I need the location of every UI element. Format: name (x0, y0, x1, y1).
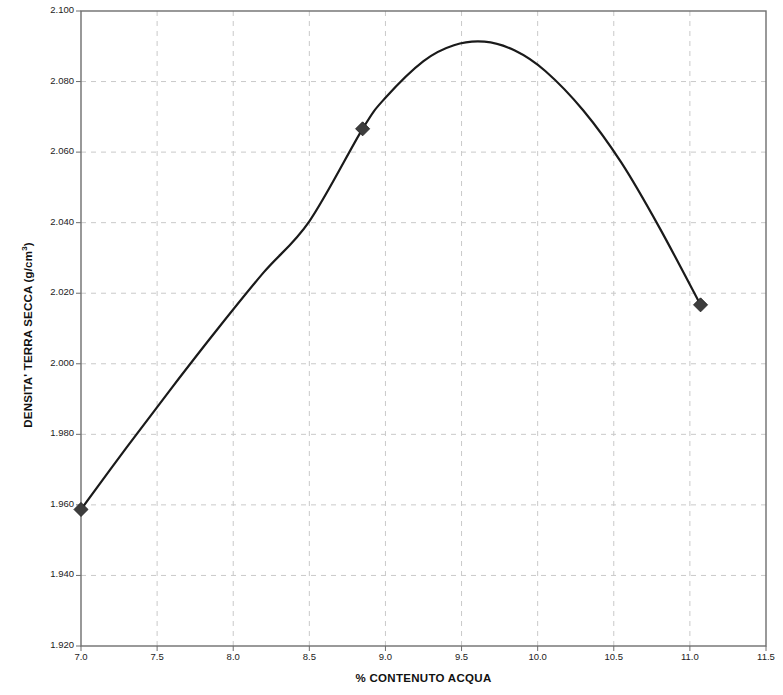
x-axis-title: % CONTENUTO ACQUA (81, 672, 766, 684)
axis-tick-marks (76, 11, 766, 651)
plot-area (0, 0, 783, 695)
axis-frame (81, 11, 766, 646)
data-series-markers (74, 122, 708, 517)
chart-container: DENSITA' TERRA SECCA (g/cm3) 1.9201.9401… (0, 0, 783, 695)
vertical-gridlines (157, 11, 690, 646)
horizontal-gridlines (81, 82, 766, 576)
data-point-marker (694, 298, 708, 312)
data-series-line (81, 41, 701, 509)
data-point-marker (356, 122, 370, 136)
